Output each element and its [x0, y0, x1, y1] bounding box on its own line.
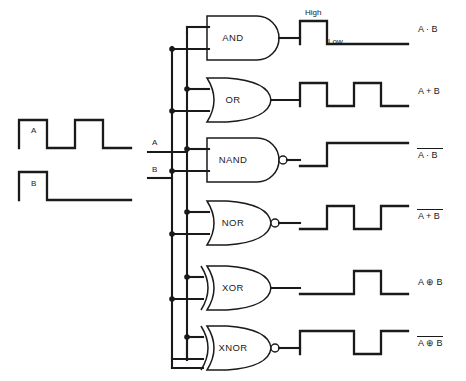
output-expression-group: A · BA + BA · BA + BA ⊕ BA ⊕ B [417, 24, 443, 348]
junction-dot-a-xnor [184, 334, 190, 340]
input-waveform-a: A [19, 120, 131, 148]
high-level-label: High [305, 8, 321, 17]
output-expression-xnor: A ⊕ B [417, 337, 443, 349]
output-expression-nand: A · B [417, 149, 443, 161]
junction-dot-a-xor [184, 274, 190, 280]
output-expression-xor: A ⊕ B [418, 277, 443, 287]
input-waveform-b: B [19, 172, 131, 200]
output-waveform-nor [300, 206, 408, 229]
output-expression-or: A + B [418, 86, 440, 96]
input-waveform-group: A B [19, 120, 131, 200]
junction-dot-b-or [169, 108, 175, 114]
junction-dot-b-xor [169, 296, 175, 302]
logic-gate-nand[interactable]: NAND [169, 138, 300, 182]
output-waveform-or [300, 83, 408, 106]
output-expression-text-or: A + B [418, 86, 440, 96]
output-expression-text-xor: A ⊕ B [418, 277, 443, 287]
junction-dot-b-nand [169, 168, 175, 174]
logic-gate-xor[interactable]: XOR [169, 266, 300, 310]
gate-label-nor: NOR [222, 217, 244, 228]
junction-dot-b-nor [169, 231, 175, 237]
output-waveform-group [300, 21, 408, 354]
inversion-bubble-nor [271, 219, 279, 227]
gate-label-and: AND [222, 32, 243, 43]
logic-gate-diagram: A B A B ANDORNANDNORXORXNOR A · BA + BA … [0, 0, 466, 381]
input-b-label: B [31, 179, 36, 188]
xor-extra-arc-xor [201, 266, 208, 310]
logic-gate-and[interactable]: AND [169, 16, 300, 60]
input-a-label: A [31, 126, 37, 135]
gate-label-xor: XOR [222, 282, 244, 293]
gate-label-or: OR [225, 94, 240, 105]
output-expression-text-nand: A · B [418, 150, 438, 160]
junction-dot-a-nor [184, 209, 190, 215]
low-level-label: Low [328, 37, 343, 46]
logic-gate-or[interactable]: OR [169, 78, 300, 122]
output-expression-and: A · B [418, 24, 438, 34]
xor-extra-arc-xnor [201, 326, 208, 370]
diagram-canvas: A B A B ANDORNANDNORXORXNOR A · BA + BA … [0, 0, 466, 381]
junction-dot-a-or [184, 86, 190, 92]
bus-label-b: B [152, 165, 157, 174]
logic-gate-xnor[interactable]: XNOR [172, 326, 300, 370]
output-expression-text-nor: A + B [418, 211, 440, 221]
output-expression-text-and: A · B [418, 24, 438, 34]
gate-label-xnor: XNOR [218, 342, 247, 353]
bus-label-a: A [152, 138, 158, 147]
output-waveform-xor [300, 271, 408, 294]
gates-group: ANDORNANDNORXORXNOR [169, 16, 300, 370]
junction-dot-b-and [169, 46, 175, 52]
level-annotation-group: High Low [305, 8, 343, 46]
output-waveform-xnor [300, 331, 408, 354]
inversion-bubble-xnor [271, 344, 279, 352]
output-expression-nor: A + B [417, 210, 443, 222]
bus-wiring-group [148, 27, 203, 368]
junction-dot-a-nand [184, 146, 190, 152]
gate-label-nand: NAND [219, 154, 248, 165]
output-waveform-nand [300, 143, 408, 166]
output-waveform-and [300, 21, 408, 44]
inversion-bubble-nand [279, 156, 287, 164]
output-expression-text-xnor: A ⊕ B [418, 338, 443, 348]
logic-gate-nor[interactable]: NOR [169, 201, 300, 245]
